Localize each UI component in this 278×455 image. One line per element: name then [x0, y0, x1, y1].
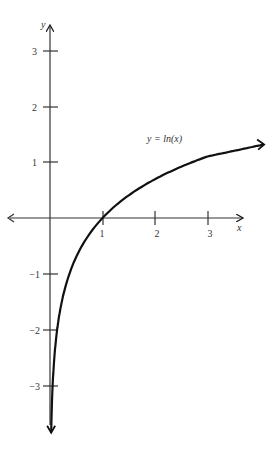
y-axis-label: y	[40, 19, 46, 30]
y-tick-label-neg2: −2	[29, 325, 40, 336]
y-tick-label-neg3: −3	[29, 381, 40, 392]
x-tick-label-2: 2	[155, 228, 160, 239]
y-tick-label-3: 3	[32, 46, 37, 57]
y-tick-label-neg1: −1	[29, 269, 40, 280]
x-tick-label-1: 1	[100, 228, 105, 239]
y-tick-label-1: 1	[32, 157, 37, 168]
curve-label: y = ln(x)	[146, 133, 183, 145]
x-tick-label-3: 3	[208, 228, 213, 239]
ln-graph: 1 2 3 3 2 1 −1 −2 −3 x y y = ln(x)	[0, 0, 278, 455]
x-axis-label: x	[236, 222, 242, 233]
ln-curve	[51, 145, 263, 432]
y-tick-label-2: 2	[32, 102, 37, 113]
